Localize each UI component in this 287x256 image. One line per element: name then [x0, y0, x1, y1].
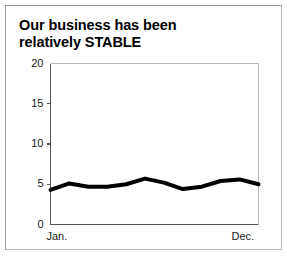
- x-axis-tick-label: Dec.: [232, 230, 255, 242]
- x-axis-tick-label: Jan.: [47, 230, 68, 242]
- data-series-line: [51, 179, 259, 190]
- y-axis-tick-label: 20: [22, 57, 44, 69]
- y-axis-tick-label: 15: [22, 97, 44, 109]
- y-axis-tick-label: 0: [22, 218, 44, 230]
- data-line: [51, 179, 259, 190]
- y-axis-tick-label: 5: [22, 177, 44, 189]
- figure-container: Our business has been relatively STABLE …: [0, 0, 287, 256]
- line-chart: 05101520 Jan.Dec.: [0, 0, 287, 256]
- chart-axes: [47, 64, 259, 225]
- y-axis-tick-label: 10: [22, 137, 44, 149]
